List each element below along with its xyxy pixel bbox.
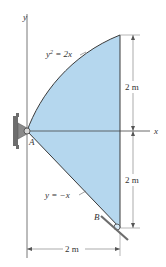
lower-height-dimension: 2 m — [125, 175, 139, 185]
arrowhead-left-icon — [27, 247, 32, 251]
arrowhead-mid-down-icon — [131, 131, 135, 136]
leader-line-lower-curve — [79, 191, 86, 195]
shaded-plate-region — [27, 35, 120, 228]
plate-diagram: y x y2 = 2x y = −x A B 2 m 2 m 2 m — [0, 0, 166, 267]
arrowhead-bottom-icon — [131, 223, 135, 228]
x-axis-label: x — [153, 126, 158, 136]
upper-height-dimension: 2 m — [125, 82, 139, 92]
pin-support-icon — [13, 113, 30, 149]
arrowhead-mid-up-icon — [131, 126, 135, 131]
arrowhead-top-icon — [131, 35, 135, 40]
point-b-label: B — [94, 212, 100, 222]
lower-curve-equation: y = −x — [44, 190, 70, 200]
width-dimension: 2 m — [65, 244, 79, 254]
y-axis-label: y — [22, 12, 27, 22]
point-a-label: A — [28, 137, 35, 147]
upper-curve-equation: y2 = 2x — [45, 49, 72, 59]
arrowhead-right-icon — [115, 247, 120, 251]
